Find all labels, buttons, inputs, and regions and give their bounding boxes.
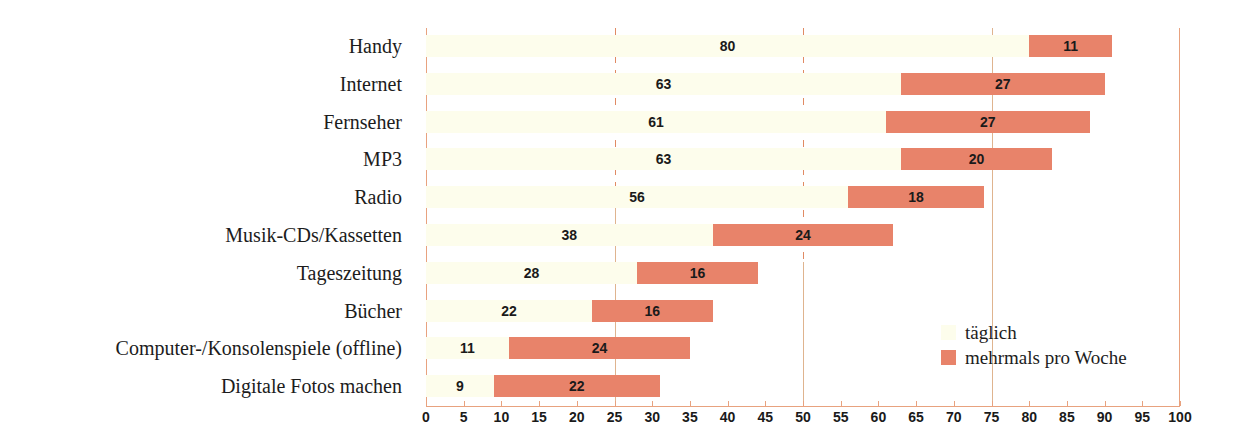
- legend-swatch-icon: [941, 325, 956, 340]
- category-label: Handy: [0, 28, 414, 65]
- bar-value-label: 61: [426, 111, 886, 133]
- x-tick-label: 45: [758, 409, 774, 425]
- x-tick-label: 15: [531, 409, 547, 425]
- legend-label: mehrmals pro Woche: [965, 347, 1127, 369]
- x-tick-label: 50: [795, 409, 811, 425]
- x-tick-mark: [1067, 401, 1068, 406]
- bar-row: 6320: [426, 141, 1180, 178]
- legend-label: täglich: [965, 322, 1017, 344]
- x-axis: 0510152025303540455055606570758085909510…: [426, 406, 1180, 436]
- x-tick-label: 10: [494, 409, 510, 425]
- x-tick-mark: [878, 401, 879, 406]
- legend-item: täglich: [941, 320, 1221, 345]
- bar-value-label: 11: [1029, 35, 1112, 57]
- x-tick-label: 85: [1059, 409, 1075, 425]
- x-tick-label: 70: [946, 409, 962, 425]
- x-tick-label: 80: [1021, 409, 1037, 425]
- x-tick-mark: [501, 401, 502, 406]
- bar-row: 8011: [426, 28, 1180, 65]
- stacked-bar: 5618: [426, 186, 1180, 208]
- stacked-bar: 6320: [426, 148, 1180, 170]
- bar-value-label: 80: [426, 35, 1029, 57]
- bar-row: 922: [426, 368, 1180, 405]
- bar-value-label: 22: [426, 300, 592, 322]
- stacked-bar: 6127: [426, 111, 1180, 133]
- x-tick-mark: [992, 401, 993, 406]
- x-tick-label: 95: [1135, 409, 1151, 425]
- stacked-bar: 8011: [426, 35, 1180, 57]
- x-tick-mark: [954, 401, 955, 406]
- x-tick-label: 75: [984, 409, 1000, 425]
- x-tick-mark: [615, 401, 616, 406]
- bar-value-label: 56: [426, 186, 848, 208]
- bar-value-label: 28: [426, 262, 637, 284]
- x-tick-mark: [652, 401, 653, 406]
- category-label: Digitale Fotos machen: [0, 368, 414, 405]
- category-label: MP3: [0, 141, 414, 178]
- bar-value-label: 38: [426, 224, 713, 246]
- x-tick-mark: [765, 401, 766, 406]
- bar-value-label: 20: [901, 148, 1052, 170]
- category-label: Internet: [0, 66, 414, 103]
- stacked-bar-chart: HandyInternetFernseherMP3RadioMusik-CDs/…: [0, 0, 1240, 444]
- stacked-bar: 6327: [426, 73, 1180, 95]
- bar-value-label: 16: [592, 300, 713, 322]
- category-label: Fernseher: [0, 104, 414, 141]
- category-label: Musik-CDs/Kassetten: [0, 217, 414, 254]
- chart-legend: täglichmehrmals pro Woche: [941, 320, 1221, 370]
- x-tick-label: 0: [422, 409, 430, 425]
- bar-value-label: 27: [901, 73, 1105, 95]
- category-label: Tageszeitung: [0, 255, 414, 292]
- bar-row: 6327: [426, 66, 1180, 103]
- bar-value-label: 11: [426, 337, 509, 359]
- x-tick-mark: [1105, 401, 1106, 406]
- x-tick-label: 35: [682, 409, 698, 425]
- bar-row: 5618: [426, 179, 1180, 216]
- x-tick-mark: [1029, 401, 1030, 406]
- stacked-bar: 2816: [426, 262, 1180, 284]
- legend-item: mehrmals pro Woche: [941, 345, 1221, 370]
- stacked-bar: 2216: [426, 300, 1180, 322]
- x-tick-label: 40: [720, 409, 736, 425]
- category-label-list: HandyInternetFernseherMP3RadioMusik-CDs/…: [0, 28, 414, 406]
- bar-row: 3824: [426, 217, 1180, 254]
- bar-value-label: 63: [426, 73, 901, 95]
- x-tick-mark: [1142, 401, 1143, 406]
- x-tick-mark: [539, 401, 540, 406]
- x-tick-mark: [1180, 401, 1181, 406]
- bar-row: 2816: [426, 255, 1180, 292]
- x-tick-label: 25: [607, 409, 623, 425]
- bar-value-label: 24: [713, 224, 894, 246]
- x-tick-mark: [916, 401, 917, 406]
- x-tick-label: 55: [833, 409, 849, 425]
- x-tick-mark: [728, 401, 729, 406]
- bar-value-label: 27: [886, 111, 1090, 133]
- x-tick-label: 60: [871, 409, 887, 425]
- bar-value-label: 22: [494, 375, 660, 397]
- bar-value-label: 18: [848, 186, 984, 208]
- bar-value-label: 24: [509, 337, 690, 359]
- x-tick-label: 90: [1097, 409, 1113, 425]
- x-tick-label: 100: [1168, 409, 1191, 425]
- x-tick-label: 65: [908, 409, 924, 425]
- bar-value-label: 9: [426, 375, 494, 397]
- category-label: Bücher: [0, 293, 414, 330]
- x-tick-mark: [803, 401, 804, 406]
- stacked-bar: 3824: [426, 224, 1180, 246]
- x-tick-mark: [464, 401, 465, 406]
- x-tick-label: 30: [644, 409, 660, 425]
- bar-row: 6127: [426, 104, 1180, 141]
- x-tick-mark: [841, 401, 842, 406]
- x-tick-mark: [426, 401, 427, 406]
- x-tick-label: 20: [569, 409, 585, 425]
- bar-value-label: 16: [637, 262, 758, 284]
- legend-swatch-icon: [941, 350, 956, 365]
- stacked-bar: 922: [426, 375, 1180, 397]
- x-axis-baseline: [426, 406, 1180, 407]
- x-tick-mark: [577, 401, 578, 406]
- x-tick-mark: [690, 401, 691, 406]
- bar-value-label: 63: [426, 148, 901, 170]
- category-label: Computer-/Konsolenspiele (offline): [0, 330, 414, 367]
- category-label: Radio: [0, 179, 414, 216]
- x-tick-label: 5: [460, 409, 468, 425]
